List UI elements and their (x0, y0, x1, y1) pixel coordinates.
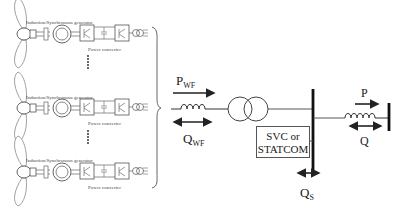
transformer-primary (228, 97, 252, 121)
turbine-2 (15, 72, 148, 142)
svc-statcom-box: SVC or STATCOM (256, 126, 310, 158)
converter-label-1: Power converter (88, 47, 121, 52)
q-label: Q (360, 135, 369, 147)
qs-label: QS (300, 186, 314, 202)
q-wf-label: QWF (183, 132, 204, 148)
transformer-secondary (244, 97, 268, 121)
generator-label-2: Induction/Synchronous generator (26, 95, 93, 100)
converter-label-3: Power converter (88, 185, 121, 190)
p-wf-label: PWF (176, 74, 195, 90)
converter-label-2: Power converter (88, 121, 121, 126)
p-label: P (361, 87, 368, 99)
generator-label-3: Induction/Synchronous generator (26, 158, 93, 163)
wind-farm-inductor (171, 105, 228, 110)
diagram-canvas (0, 0, 401, 208)
generator-label-1: Induction/Synchronous generator (26, 20, 93, 25)
grouping-brace (152, 27, 161, 188)
svc-line1: SVC or (257, 130, 309, 143)
turbine-3 (15, 136, 148, 206)
svc-line2: STATCOM (257, 143, 309, 156)
turbine-1 (15, 0, 148, 68)
grid-inductor (345, 114, 389, 119)
